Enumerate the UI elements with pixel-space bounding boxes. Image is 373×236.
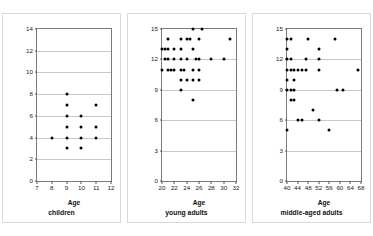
data-point <box>80 114 83 117</box>
data-point <box>292 88 295 91</box>
data-point <box>317 48 320 51</box>
y-tick-mark <box>35 159 38 160</box>
data-point <box>167 38 170 41</box>
data-point <box>80 136 83 139</box>
y-tick-label: 14 <box>26 26 33 32</box>
data-point <box>191 68 194 71</box>
y-tick-label: 12 <box>151 56 158 62</box>
data-point <box>228 38 231 41</box>
y-tick-label: 3 <box>280 147 283 153</box>
data-point <box>286 88 289 91</box>
x-tick-label: 68 <box>358 185 365 191</box>
data-point <box>185 78 188 81</box>
y-tick-label: 6 <box>30 113 33 119</box>
data-point <box>161 68 164 71</box>
x-axis-title-young-adults: Age <box>161 199 237 206</box>
x-tick-label: 10 <box>78 185 85 191</box>
y-tick-label: 8 <box>30 91 33 97</box>
data-point <box>179 38 182 41</box>
x-tick-label: 56 <box>326 185 333 191</box>
data-point <box>179 88 182 91</box>
data-point <box>201 28 204 31</box>
y-tick-label: 0 <box>280 178 283 184</box>
gridline <box>162 151 236 152</box>
x-tick-label: 24 <box>183 185 190 191</box>
x-tick-label: 9 <box>65 185 68 191</box>
x-tick-label: 7 <box>35 185 38 191</box>
x-tick-label: 32 <box>233 185 240 191</box>
gridline <box>287 90 361 91</box>
data-point <box>296 119 299 122</box>
y-tick-label: 6 <box>280 117 283 123</box>
data-point <box>304 58 307 61</box>
x-tick-label: 30 <box>220 185 227 191</box>
gridline <box>162 90 236 91</box>
group-label-children: children <box>3 209 120 216</box>
gridline <box>37 51 111 52</box>
data-point <box>191 78 194 81</box>
data-point <box>65 147 68 150</box>
x-tick-label: 48 <box>305 185 312 191</box>
data-point <box>286 78 289 81</box>
data-point <box>179 78 182 81</box>
data-point <box>336 88 339 91</box>
group-label-middle-aged-adults: middle-aged adults <box>253 209 370 216</box>
data-point <box>304 68 307 71</box>
y-tick-label: 4 <box>30 134 33 140</box>
y-tick-mark <box>285 120 288 121</box>
gridline <box>37 159 111 160</box>
data-point <box>292 78 295 81</box>
gridline <box>287 151 361 152</box>
data-point <box>289 38 292 41</box>
gridline <box>162 120 236 121</box>
panel-middle-aged-adults: verbal memory [max = 15] 036912154044485… <box>252 13 371 223</box>
data-point <box>173 48 176 51</box>
gridline <box>37 72 111 73</box>
panel-young-adults: verbal memory [max = 15] 036912152022242… <box>127 13 246 223</box>
y-tick-label: 9 <box>280 87 283 93</box>
plot-area-children: 02468101214789101112 <box>36 28 112 182</box>
data-point <box>286 48 289 51</box>
y-tick-mark <box>160 29 163 30</box>
data-point <box>191 28 194 31</box>
y-tick-label: 12 <box>276 56 283 62</box>
data-point <box>191 48 194 51</box>
data-point <box>185 58 188 61</box>
y-tick-mark <box>160 59 163 60</box>
data-point <box>317 58 320 61</box>
data-point <box>286 38 289 41</box>
data-point <box>80 125 83 128</box>
data-point <box>65 93 68 96</box>
data-point <box>179 58 182 61</box>
group-label-young-adults: young adults <box>128 209 245 216</box>
plot-area-middle-aged-adults: 036912154044485256606468 <box>286 28 362 182</box>
data-point <box>65 104 68 107</box>
gridline <box>37 94 111 95</box>
y-tick-mark <box>35 137 38 138</box>
y-tick-label: 15 <box>151 26 158 32</box>
data-point <box>182 68 185 71</box>
data-point <box>65 125 68 128</box>
gridline <box>287 59 361 60</box>
data-point <box>317 68 320 71</box>
x-tick-label: 26 <box>196 185 203 191</box>
gridline <box>37 116 111 117</box>
data-point <box>179 48 182 51</box>
data-point <box>312 109 315 112</box>
y-tick-mark <box>285 29 288 30</box>
data-point <box>300 68 303 71</box>
y-tick-label: 2 <box>30 156 33 162</box>
data-point <box>328 129 331 132</box>
x-tick-label: 60 <box>336 185 343 191</box>
data-point <box>198 68 201 71</box>
plot-area-young-adults: 0369121520222426283032 <box>161 28 237 182</box>
x-tick-label: 22 <box>171 185 178 191</box>
y-tick-mark <box>160 89 163 90</box>
x-tick-label: 44 <box>294 185 301 191</box>
y-tick-mark <box>35 50 38 51</box>
x-tick-label: 11 <box>93 185 99 191</box>
data-point <box>333 38 336 41</box>
y-tick-label: 15 <box>276 26 283 32</box>
y-tick-label: 0 <box>155 178 158 184</box>
panel-children: verbal memory [max = 14] 024681012147891… <box>2 13 121 223</box>
